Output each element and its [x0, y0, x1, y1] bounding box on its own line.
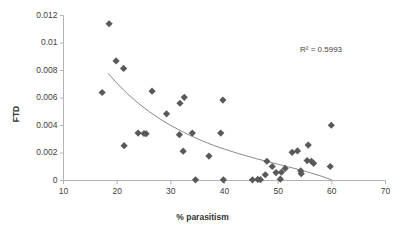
y-tick-label: 0	[53, 175, 58, 185]
x-tick-label: 20	[112, 186, 122, 196]
data-point-marker	[176, 100, 183, 107]
data-point-marker	[134, 129, 141, 136]
y-tick-label: 0.002	[36, 147, 58, 157]
data-point-marker	[219, 96, 226, 103]
data-point-marker	[181, 94, 188, 101]
data-point-marker	[120, 65, 127, 72]
data-point-marker	[262, 171, 269, 178]
x-axis-title: % parasitism	[0, 212, 405, 222]
x-tick-label: 70	[381, 186, 391, 196]
scatter-chart: 00.0020.0040.0060.0080.010.012 102030405…	[0, 0, 405, 227]
data-point-marker	[205, 152, 212, 159]
data-point-marker	[112, 57, 119, 64]
y-tick-label: 0.006	[36, 92, 58, 102]
y-tick-label: 0.01	[41, 37, 58, 47]
y-axis-ticks	[60, 16, 64, 181]
data-point-marker	[176, 131, 183, 138]
x-tick-label: 10	[59, 186, 69, 196]
x-tick-label: 30	[166, 186, 176, 196]
data-point-marker	[180, 148, 187, 155]
data-point-marker	[99, 89, 106, 96]
data-point-marker	[220, 176, 227, 183]
data-point-marker	[217, 129, 224, 136]
x-tick-label: 40	[220, 186, 230, 196]
data-point-marker	[328, 122, 335, 129]
data-point-marker	[192, 176, 199, 183]
data-point-marker	[269, 163, 276, 170]
y-tick-label: 0.008	[36, 65, 58, 75]
data-point-marker	[263, 158, 270, 165]
data-point-marker	[294, 147, 301, 154]
data-point-marker	[305, 141, 312, 148]
x-tick-label: 50	[273, 186, 283, 196]
y-tick-label: 0.012	[36, 10, 58, 20]
data-point-marker	[289, 149, 296, 156]
y-tick-labels: 00.0020.0040.0060.0080.010.012	[36, 10, 58, 185]
y-tick-label: 0.004	[36, 120, 58, 130]
trendline	[108, 73, 332, 180]
data-point-marker	[327, 163, 334, 170]
x-tick-label: 60	[327, 186, 337, 196]
data-point-marker	[121, 142, 128, 149]
y-axis-title: FTD	[11, 105, 21, 122]
data-point-marker	[163, 110, 170, 117]
chart-plot-area: 00.0020.0040.0060.0080.010.012 102030405…	[0, 0, 405, 227]
data-point-marker	[148, 88, 155, 95]
r-squared-annotation: R² = 0.5993	[300, 45, 342, 54]
x-tick-labels: 10203040506070	[59, 186, 391, 196]
data-point-marker	[106, 20, 113, 27]
